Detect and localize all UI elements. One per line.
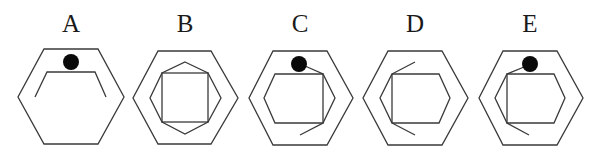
figure-e-label: E bbox=[522, 10, 537, 37]
connector-path bbox=[300, 66, 323, 135]
figure-e[interactable]: E bbox=[479, 10, 583, 145]
black-dot-icon bbox=[63, 54, 79, 70]
figure-a-label: A bbox=[62, 10, 80, 37]
inner-hexagon bbox=[380, 74, 450, 123]
figure-d[interactable]: D bbox=[363, 10, 468, 145]
outer-hexagon bbox=[363, 51, 468, 145]
figure-b-label: B bbox=[177, 10, 194, 37]
lower-tail bbox=[392, 123, 415, 135]
inner-square bbox=[162, 73, 208, 122]
connector-path bbox=[507, 67, 529, 135]
figure-c-label: C bbox=[292, 10, 309, 37]
outer-hexagon bbox=[133, 51, 238, 144]
figure-d-label: D bbox=[406, 10, 424, 37]
figure-c[interactable]: C bbox=[249, 10, 353, 145]
black-dot-icon bbox=[522, 56, 538, 72]
figure-b[interactable]: B bbox=[133, 10, 238, 144]
open-partial-hexagon bbox=[35, 72, 106, 97]
inner-hexagon bbox=[495, 74, 565, 123]
figure-a[interactable]: A bbox=[18, 10, 124, 144]
black-dot-icon bbox=[291, 56, 307, 72]
figure-options-diagram: A B C D E bbox=[0, 0, 597, 158]
upper-tail bbox=[392, 62, 415, 74]
inner-hexagon bbox=[264, 74, 335, 123]
